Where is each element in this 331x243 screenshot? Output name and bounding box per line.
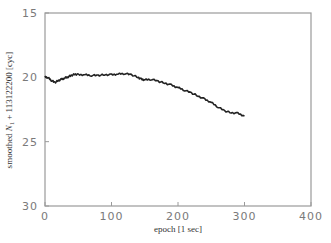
y-tick-label: 30 [22, 200, 38, 213]
y-tick-label: 15 [22, 7, 38, 20]
y-axis-label: smoothed N1 + 113122200 [cyc] [4, 52, 15, 169]
line-chart: 15202530 0100200300400 epoch [1 sec] smo… [0, 0, 331, 243]
x-tick-label: 400 [299, 210, 323, 223]
data-line [45, 73, 245, 116]
y-tick-label: 25 [22, 136, 38, 149]
plot-frame [45, 13, 311, 206]
x-tick-label: 100 [100, 210, 124, 223]
y-tick-label: 20 [22, 71, 38, 84]
x-tick-label: 0 [41, 210, 49, 223]
x-axis-ticks: 0100200300400 [41, 202, 323, 223]
x-axis-label: epoch [1 sec] [154, 224, 202, 234]
x-tick-label: 200 [166, 210, 190, 223]
x-tick-label: 300 [233, 210, 257, 223]
